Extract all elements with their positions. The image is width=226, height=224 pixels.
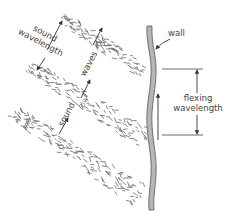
wave-dash [66, 93, 70, 96]
wave-dash [101, 45, 104, 49]
wave-dash [115, 182, 118, 186]
wave-dash [87, 31, 89, 35]
wave-dash [137, 145, 140, 146]
wave-dash [25, 115, 29, 116]
wave-dash [98, 39, 102, 42]
wave-dash [115, 186, 117, 189]
wave-dash [59, 139, 62, 141]
wave-dash [78, 34, 80, 35]
wave-dash [124, 63, 128, 64]
wave-dash [130, 203, 132, 204]
wave-dash [81, 31, 83, 33]
wave-dash [128, 121, 129, 123]
wall-pointer-arrow [156, 39, 170, 49]
wave-dash [98, 165, 100, 167]
sound-wavefront-band-3 [8, 108, 144, 206]
wave-dash [115, 118, 117, 123]
wave-dash [52, 77, 56, 80]
wave-dash [89, 105, 94, 106]
wave-dash [78, 29, 80, 30]
wave-dash [55, 91, 59, 94]
wave-dash [135, 72, 138, 75]
wave-dash [126, 135, 130, 137]
wave-dash [31, 71, 32, 73]
wave-dash [32, 123, 33, 125]
wave-dash [71, 89, 74, 92]
wave-dash [66, 96, 68, 98]
wave-dash [108, 44, 111, 45]
wave-dash [77, 97, 79, 98]
wave-dash [58, 89, 60, 92]
wave-dash [129, 66, 133, 69]
wave-dash [62, 140, 65, 141]
wave-dash [80, 148, 82, 150]
wave-dash [84, 96, 87, 97]
wave-dash [64, 79, 66, 81]
wave-dash [37, 78, 40, 79]
wave-dash [69, 144, 71, 145]
wave-dash [44, 131, 48, 134]
wave-dash [97, 157, 100, 159]
wave-dash [119, 120, 121, 121]
wave-dash [138, 193, 141, 194]
wave-dash [70, 140, 73, 143]
wave-dash [140, 196, 141, 198]
sound-waves-label-part1: sound [56, 100, 77, 127]
wave-dash [130, 71, 135, 73]
wave-dash [84, 159, 88, 162]
wave-dash [142, 66, 145, 68]
wave-dash [133, 68, 137, 70]
wave-dash [134, 139, 137, 141]
wave-dash [134, 193, 138, 196]
wave-dash [117, 180, 119, 183]
wave-dash [85, 29, 87, 31]
wave-dash [116, 131, 117, 133]
wave-dash [28, 112, 29, 115]
wave-dash [106, 106, 108, 109]
wave-dash [28, 132, 31, 134]
wave-dash [53, 135, 57, 136]
wave-dash [133, 58, 136, 59]
wave-dash [109, 111, 111, 114]
wave-dash [51, 74, 54, 76]
wave-dash [91, 167, 94, 168]
wave-dash [137, 130, 139, 132]
sound-wavefront-band-1 [61, 15, 145, 76]
wave-dash [82, 155, 84, 157]
wave-dash [67, 146, 68, 148]
wave-dash [140, 182, 142, 184]
wave-dash [65, 84, 69, 85]
wave-dash [118, 174, 123, 175]
wave-dash [138, 191, 139, 193]
wave-dash [83, 103, 85, 105]
wave-dash [89, 157, 91, 162]
wave-dash [144, 137, 145, 140]
flexing-wavelength-line2: wavelength [173, 103, 223, 113]
wave-dash [22, 111, 26, 114]
wave-dash [126, 190, 129, 191]
wave-dash [77, 156, 80, 158]
wave-dash [117, 125, 119, 127]
wave-dash [104, 110, 105, 112]
coincidence-diagram: wall sound wavelength waves sound flexin… [0, 0, 226, 224]
wave-dash [32, 67, 35, 70]
wave-dash [65, 154, 70, 155]
wave-dash [105, 161, 107, 166]
wave-dash [33, 73, 36, 76]
wave-dash [69, 145, 72, 148]
wave-dash [33, 64, 38, 65]
wave-dash [58, 77, 59, 79]
wave-dash [72, 32, 75, 33]
wave-dash [39, 137, 41, 139]
wall [147, 26, 156, 210]
wave-dash [63, 148, 68, 149]
wave-dash [38, 126, 43, 127]
wave-dash [127, 176, 130, 177]
wave-dash [112, 58, 117, 59]
wave-dash [126, 200, 131, 201]
wave-dash [123, 131, 126, 134]
wave-dash [60, 148, 64, 149]
wave-dash [15, 111, 16, 114]
wave-dash [133, 131, 135, 132]
wave-dash [128, 182, 130, 187]
